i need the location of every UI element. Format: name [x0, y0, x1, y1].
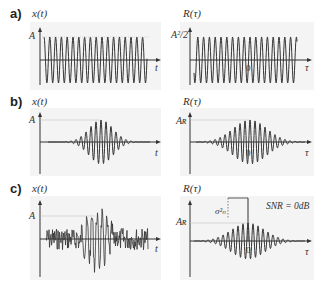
zero-label-a: 0: [246, 63, 251, 73]
x-of-t-label-b: x(t): [32, 95, 47, 107]
b-left-y-arrow-icon: [38, 112, 42, 117]
amplitude-label-a: A: [29, 30, 35, 41]
t-axis-label-c: t: [155, 243, 158, 254]
x-of-t-label-c: x(t): [32, 182, 47, 194]
a-right-y-arrow-icon: [188, 27, 192, 32]
half-a-squared-label: A²/2: [171, 29, 188, 40]
r-of-tau-label-a: R(τ): [183, 7, 201, 19]
t-axis-label-a: t: [155, 62, 158, 73]
ar-label-c: Aʀ: [176, 216, 187, 227]
r-of-tau-label-b: R(τ): [183, 95, 201, 107]
c-left-x-arrow-icon: [156, 237, 161, 241]
noise-variance-label: σ²ₙ: [215, 206, 226, 216]
b-left-x-arrow-icon: [156, 140, 161, 144]
zero-label-c: 0: [246, 245, 251, 255]
snr-label: SNR = 0dB: [266, 201, 309, 211]
amplitude-label-c: A: [29, 210, 35, 221]
row-label-b: b): [10, 94, 22, 109]
t-axis-label-b: t: [155, 147, 158, 158]
noisy-burst-wave-c-left: [46, 209, 148, 273]
row-label-c: c): [10, 181, 22, 196]
tau-axis-label-c: τ: [305, 246, 309, 257]
x-of-t-label-a: x(t): [32, 7, 47, 19]
tau-axis-label-b: τ: [305, 147, 309, 158]
row-label-a: a): [10, 6, 22, 21]
amplitude-label-b: A: [29, 114, 35, 125]
b-right-x-arrow-icon: [307, 140, 312, 144]
waveform-plots: [0, 0, 326, 283]
r-of-tau-label-c: R(τ): [183, 182, 201, 194]
c-right-x-arrow-icon: [307, 239, 312, 243]
c-left-y-arrow-icon: [38, 200, 42, 205]
zero-label-b: 0: [246, 148, 251, 158]
ar-label-b: Aʀ: [176, 115, 187, 126]
b-right-y-arrow-icon: [188, 112, 192, 117]
tau-axis-label-a: τ: [305, 62, 309, 73]
c-right-y-arrow-icon: [188, 200, 192, 205]
a-left-y-arrow-icon: [38, 27, 42, 32]
